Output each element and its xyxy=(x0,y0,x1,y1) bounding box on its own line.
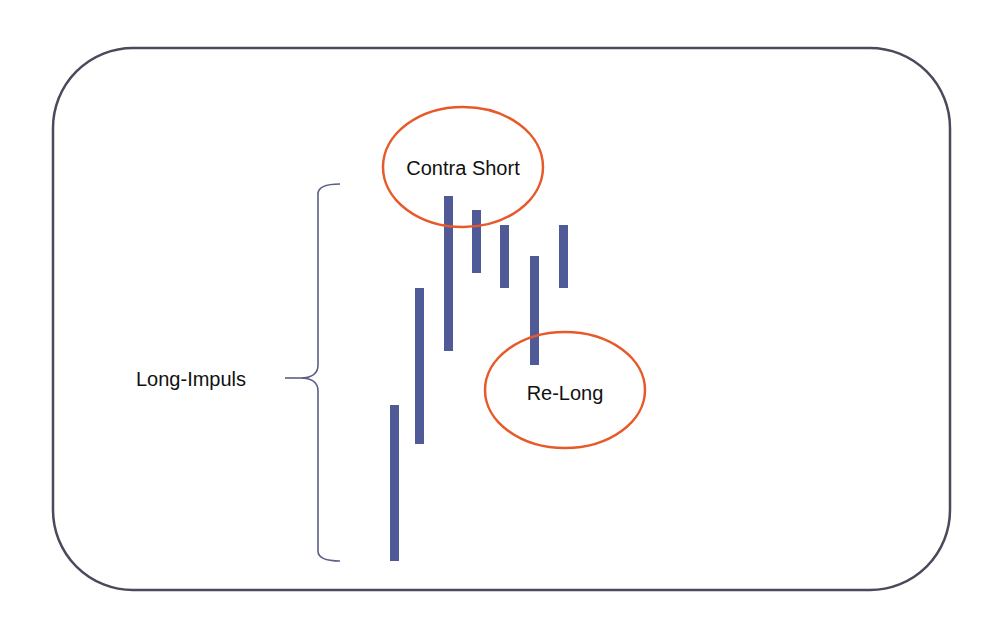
re-long-label: Re-Long xyxy=(527,382,604,404)
contra-short-label: Contra Short xyxy=(406,157,520,179)
price-bar xyxy=(415,288,424,444)
curly-brace-icon xyxy=(300,184,340,561)
price-bar xyxy=(472,210,481,273)
price-bar xyxy=(444,196,453,351)
long-impuls-label: Long-Impuls xyxy=(136,368,246,390)
diagram-frame xyxy=(53,48,950,590)
price-bars xyxy=(390,196,568,561)
price-bar xyxy=(390,405,399,561)
price-bar xyxy=(500,225,509,288)
price-bar xyxy=(530,256,539,365)
price-bar xyxy=(559,225,568,288)
impulse-diagram: Contra Short Re-Long Long-Impuls xyxy=(0,0,1002,619)
